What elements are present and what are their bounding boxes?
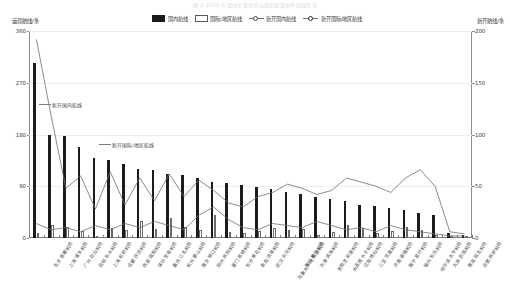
y-axis-left-tick-label: 270 <box>16 80 26 86</box>
legend-item-international-routes[interactable]: 国际/地区航线 <box>195 15 242 22</box>
legend-line-circle-icon <box>249 15 264 22</box>
y-axis-right-tick-label: 150 <box>475 80 485 86</box>
y-axis-left-title: 运营航线/条 <box>12 17 39 25</box>
x-axis-labels: 北京首都机场上海浦东机场广州白云机场昆明长水机场上海虹桥机场成都双流机场西安咸阳… <box>29 240 472 282</box>
y-axis-right-tick-label: 200 <box>475 28 485 34</box>
legend-line-circle-icon <box>303 15 318 22</box>
legend-item-new-international-routes[interactable]: 新开国际/地区航线 <box>303 15 362 22</box>
new-international-line <box>36 207 464 236</box>
y-axis-left-tick-label: 180 <box>16 132 26 138</box>
y-axis-right-title: 新开航线/条 <box>477 17 504 25</box>
plot-area: 090180270360 050100150200 <box>29 31 472 238</box>
x-axis-tick-mark <box>472 235 473 238</box>
y-axis-tick-mark <box>472 135 475 136</box>
line-series-layer <box>29 31 472 238</box>
legend-item-new-domestic-routes[interactable]: 新开国内航线 <box>249 15 297 22</box>
chart-annotation: 新开国内航线 <box>52 101 82 108</box>
y-axis-right-tick-label: 50 <box>475 183 482 189</box>
legend-label: 国际/地区航线 <box>210 15 242 22</box>
y-axis-right-tick-label: 0 <box>475 235 478 241</box>
legend-item-domestic-routes[interactable]: 国内航线 <box>152 15 188 22</box>
annotation-leader-line <box>39 104 51 105</box>
y-axis-tick-mark <box>472 238 475 239</box>
new-domestic-line <box>36 39 464 234</box>
legend-label: 国内航线 <box>168 15 188 22</box>
y-axis-tick-mark <box>472 31 475 32</box>
chart-annotation: 新开国际/地区航线 <box>112 141 154 148</box>
legend-label: 新开国内航线 <box>266 15 296 22</box>
y-axis-tick-mark <box>472 83 475 84</box>
y-axis-left-tick-label: 0 <box>23 235 26 241</box>
legend-swatch-filled-icon <box>152 15 165 22</box>
annotation-leader-line <box>99 144 111 145</box>
chart-container: 图 2 2019 年我国主要机场运营航线及新开航线情况 运营航线/条 新开航线/… <box>0 0 510 282</box>
legend-label: 新开国际/地区航线 <box>321 15 363 22</box>
y-axis-left-tick-label: 90 <box>19 183 26 189</box>
legend-swatch-hollow-icon <box>195 15 208 22</box>
y-axis-tick-mark <box>27 238 30 239</box>
y-axis-tick-mark <box>472 186 475 187</box>
y-axis-right-tick-label: 100 <box>475 132 485 138</box>
y-axis-left-tick-label: 360 <box>16 28 26 34</box>
chart-title: 图 2 2019 年我国主要机场运营航线及新开航线情况 <box>0 0 510 9</box>
chart-legend: 国内航线 国际/地区航线 新开国内航线 新开国际/地区航线 <box>152 15 363 22</box>
